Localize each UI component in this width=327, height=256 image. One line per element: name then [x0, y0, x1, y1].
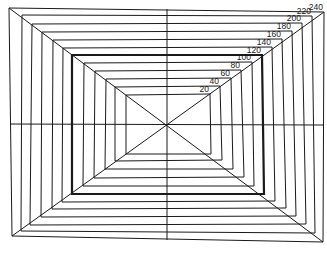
level-label: 60 [221, 68, 231, 78]
level-label: 20 [200, 84, 210, 94]
level-label: 240 [309, 2, 323, 12]
level-label: 40 [210, 76, 220, 86]
nested-rectangles-diagram: 20406080100120140160180200220240 [0, 0, 327, 256]
